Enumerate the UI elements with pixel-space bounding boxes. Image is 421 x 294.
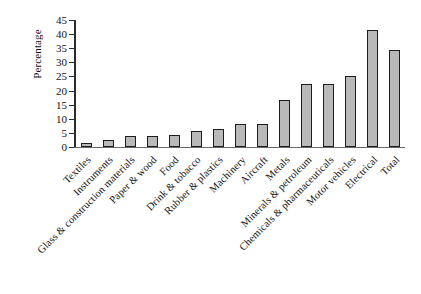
bar: [81, 143, 92, 147]
x-axis-tick-label: Total: [378, 154, 401, 177]
y-tick-label: 10: [56, 113, 67, 124]
bar: [301, 84, 312, 147]
bar-slot: [273, 20, 295, 147]
x-axis-labels: TextilesInstrumentsGlass & construction …: [74, 150, 405, 290]
y-tick-label: 40: [56, 29, 67, 40]
y-tick-label: 35: [56, 43, 67, 54]
plot-area: 051015202530354045: [74, 20, 405, 148]
bar: [279, 100, 290, 147]
bar-slot: [295, 20, 317, 147]
bar-slot: [339, 20, 361, 147]
bar: [169, 135, 180, 147]
bar-series: [75, 20, 405, 147]
y-tick-label: 30: [56, 57, 67, 68]
bar-slot: [163, 20, 185, 147]
bar: [345, 76, 356, 147]
y-tick-label: 15: [56, 99, 67, 110]
y-tick-label: 45: [56, 15, 67, 26]
y-tick-mark: [69, 147, 74, 148]
bar-slot: [251, 20, 273, 147]
y-tick-label: 0: [62, 142, 68, 153]
y-tick-mark: [69, 20, 74, 21]
y-tick-mark: [69, 105, 74, 106]
bar: [103, 140, 114, 147]
bar-slot: [383, 20, 405, 147]
bar: [147, 136, 158, 147]
y-tick-mark: [69, 133, 74, 134]
bar-chart: Percentage 051015202530354045 TextilesIn…: [0, 0, 421, 294]
y-tick-mark: [69, 62, 74, 63]
x-axis-tick-label: Glass & construction materials: [35, 154, 137, 256]
bar-slot: [75, 20, 97, 147]
bar: [125, 136, 136, 147]
y-tick-mark: [69, 48, 74, 49]
bar-slot: [119, 20, 141, 147]
y-tick-mark: [69, 119, 74, 120]
bar-slot: [207, 20, 229, 147]
bar: [213, 129, 224, 147]
bar: [191, 131, 202, 147]
bar: [389, 50, 400, 147]
bar: [367, 30, 378, 147]
bar-slot: [185, 20, 207, 147]
y-tick-label: 25: [56, 71, 67, 82]
y-tick-mark: [69, 76, 74, 77]
bar: [257, 124, 268, 147]
y-axis-title: Percentage: [31, 4, 43, 104]
bar-slot: [141, 20, 163, 147]
bar: [235, 124, 246, 147]
y-tick-label: 20: [56, 85, 67, 96]
y-tick-mark: [69, 34, 74, 35]
bar-slot: [229, 20, 251, 147]
bar-slot: [361, 20, 383, 147]
y-tick-mark: [69, 91, 74, 92]
y-tick-label: 5: [62, 127, 68, 138]
bar-slot: [97, 20, 119, 147]
bar: [323, 84, 334, 147]
bar-slot: [317, 20, 339, 147]
